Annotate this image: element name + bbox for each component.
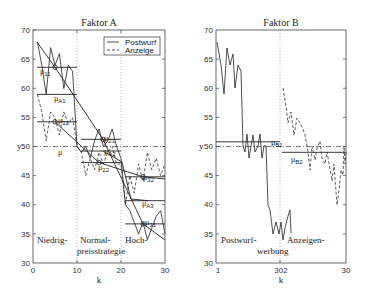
- svg-text:302: 302: [274, 266, 288, 275]
- svg-text:40: 40: [21, 200, 30, 209]
- region-label-anzeigen: Anzeigen-: [287, 235, 324, 245]
- chart-faktor-a: Faktor A μ: [17, 17, 170, 285]
- mu-label-b2: μB2: [291, 155, 303, 165]
- x-axis-b: 1 302 30 k: [216, 260, 351, 285]
- svg-text:45: 45: [21, 171, 30, 180]
- svg-text:65: 65: [21, 55, 30, 64]
- svg-text:10: 10: [73, 266, 82, 275]
- svg-text:35: 35: [204, 230, 213, 239]
- mean-markers: [53, 65, 145, 226]
- region-label-niedrig: Niedrig-: [37, 235, 68, 245]
- svg-text:50: 50: [21, 142, 30, 151]
- svg-text:μA1: μA1: [54, 94, 66, 104]
- svg-text:μ11: μ11: [40, 67, 51, 77]
- svg-text:30: 30: [204, 259, 213, 268]
- svg-text:70: 70: [204, 26, 213, 35]
- region-label-werbung: werbung: [257, 246, 289, 256]
- mu-label-b1: μB1: [271, 138, 283, 148]
- y-axis-label-b: y: [199, 141, 204, 151]
- region-label-hoch: Hoch-: [125, 235, 148, 245]
- svg-text:45: 45: [204, 171, 213, 180]
- svg-text:μA2: μA2: [104, 147, 116, 157]
- svg-text:70: 70: [21, 26, 30, 35]
- svg-text:60: 60: [21, 84, 30, 93]
- svg-text:55: 55: [204, 113, 213, 122]
- series-anzeige-a: [37, 94, 165, 204]
- y-axis-a: 70 65 60 55 50 45 40 35 30 y: [17, 26, 165, 268]
- chart-title-b: Faktor B: [263, 17, 299, 28]
- x-axis-label-b: k: [279, 275, 284, 285]
- svg-text:50: 50: [204, 142, 213, 151]
- svg-text:30: 30: [342, 266, 351, 275]
- svg-text:60: 60: [204, 84, 213, 93]
- region-label-postwurf: Postwurf-: [221, 235, 257, 245]
- svg-text:0: 0: [31, 266, 36, 275]
- svg-text:65: 65: [204, 55, 213, 64]
- svg-text:40: 40: [204, 200, 213, 209]
- figure: Faktor A μ: [0, 0, 366, 292]
- svg-text:35: 35: [21, 230, 30, 239]
- svg-text:μ12: μ12: [58, 116, 70, 126]
- legend: Postwurf Anzeige: [104, 37, 160, 55]
- chart-title-a: Faktor A: [81, 17, 117, 28]
- svg-text:30: 30: [21, 259, 30, 268]
- x-axis-label-a: k: [97, 275, 102, 285]
- region-label-normal: Normal-: [80, 235, 111, 245]
- legend-anzeige: Anzeige: [125, 46, 154, 55]
- trend-lines: [37, 42, 165, 240]
- svg-text:55: 55: [21, 113, 30, 122]
- chart-faktor-b: Faktor B μB1 μB2 Postwurf- werbung Anzei…: [199, 17, 351, 285]
- region-label-preis: preisstrategie: [77, 246, 125, 256]
- svg-text:μ32: μ32: [143, 173, 155, 183]
- svg-text:30: 30: [161, 266, 170, 275]
- grand-mean-label: μ: [58, 148, 62, 157]
- svg-text:1: 1: [216, 266, 221, 275]
- svg-text:20: 20: [117, 266, 126, 275]
- y-axis-label-a: y: [17, 141, 22, 151]
